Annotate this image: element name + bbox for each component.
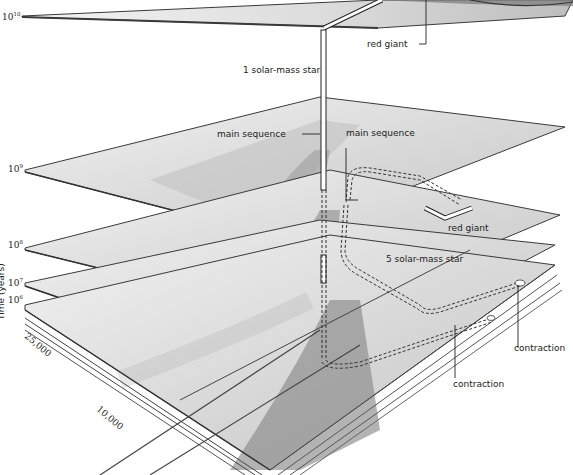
label-5-solar-mass-star: 5 solar-mass star (386, 254, 463, 264)
temp-tick-25000: 25,000 (23, 331, 54, 359)
tick-1e10: 1010 (2, 11, 21, 22)
tick-1e9: 109 (8, 163, 23, 174)
tick-1e8: 108 (8, 239, 23, 250)
label-main-sequence-right: main sequence (346, 128, 415, 138)
stellar-evolution-diagram: 1010 109 108 107 106 Time (years) 25,000… (0, 0, 573, 475)
plate-1e10 (22, 0, 573, 28)
tick-1e7: 107 (8, 277, 23, 288)
label-main-sequence-left: main sequence (217, 129, 286, 139)
label-red-giant-top: red giant (367, 39, 408, 49)
time-axis-label: Time (years) (0, 263, 6, 321)
label-1-solar-mass-star: 1 solar-mass star (243, 65, 320, 75)
label-red-giant-mid: red giant (448, 223, 489, 233)
label-contraction-lower: contraction (453, 379, 504, 389)
label-contraction-right: contraction (514, 343, 565, 353)
time-axis: 1010 109 108 107 106 Time (years) 25,000… (0, 11, 125, 432)
tick-1e6: 106 (8, 294, 23, 305)
temp-tick-10000: 10,000 (95, 404, 126, 432)
